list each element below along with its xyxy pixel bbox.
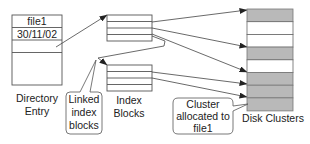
index-block-2	[107, 65, 152, 91]
callout-cluster-line1: Cluster	[186, 98, 220, 110]
cluster-8	[247, 98, 293, 111]
arrow-to-cluster-6	[152, 34, 247, 72]
index-blocks-label-line2: Blocks	[114, 107, 145, 119]
cluster-7	[247, 85, 293, 98]
callout-cluster-allocated: Cluster allocated to file1	[173, 98, 248, 134]
directory-entry: file1 30/11/02 Directory Entry	[12, 15, 62, 117]
linked-index-allocation-diagram: file1 30/11/02 Directory Entry Index Blo…	[0, 0, 310, 144]
index-blocks-label-line1: Index	[116, 94, 142, 106]
arrow-to-cluster-4	[152, 28, 247, 47]
callout-linked-line2: index	[71, 106, 97, 118]
cluster-4	[247, 47, 293, 60]
index-block-1	[107, 15, 152, 41]
cluster-5	[247, 60, 293, 73]
arrow-to-cluster-8	[152, 78, 247, 97]
callout-linked-index-blocks: Linked index blocks	[66, 60, 102, 134]
file-date: 30/11/02	[17, 28, 57, 40]
cluster-1	[247, 9, 293, 22]
arrow-to-cluster-1	[152, 10, 247, 22]
callout-linked-line1: Linked	[69, 93, 100, 105]
pointer-arrow-to-index-block	[56, 15, 107, 47]
arrow-to-cluster-7	[152, 72, 247, 84]
disk-clusters-label: Disk Clusters	[242, 112, 304, 124]
cluster-2	[247, 22, 293, 35]
cluster-6	[247, 73, 293, 86]
callout-linked-line3: blocks	[69, 119, 99, 131]
callout-cluster-line3: file1	[193, 122, 212, 134]
callout-cluster-line2: allocated to	[176, 110, 230, 122]
disk-clusters	[247, 9, 293, 111]
cluster-3	[247, 34, 293, 47]
directory-entry-label-line2: Entry	[25, 105, 50, 117]
cluster-pointer-arrows	[152, 10, 247, 97]
pointer-arrow-to-next-index-block	[98, 58, 107, 65]
file-name: file1	[27, 15, 46, 27]
directory-entry-label-line1: Directory	[16, 92, 59, 104]
